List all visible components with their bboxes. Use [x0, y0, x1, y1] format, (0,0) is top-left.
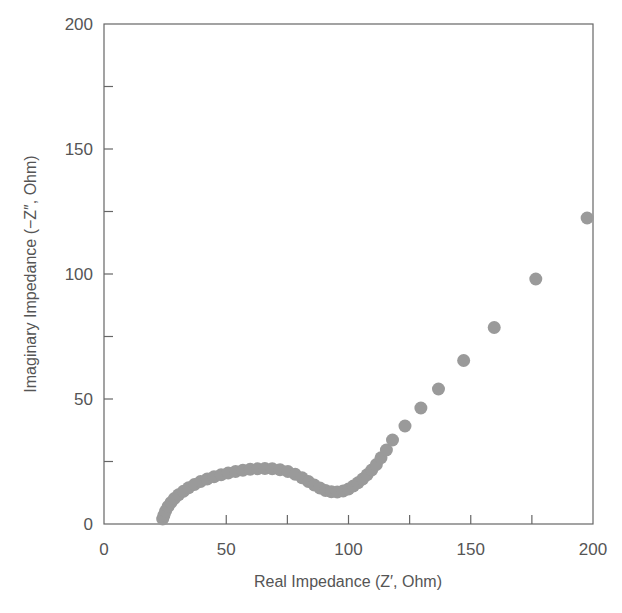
data-point: [488, 321, 501, 334]
data-point: [432, 383, 445, 396]
data-point: [581, 212, 594, 225]
y-tick-label: 0: [84, 515, 93, 534]
x-tick-label: 200: [579, 540, 607, 559]
data-points: [156, 212, 593, 526]
y-tick-label: 100: [65, 265, 93, 284]
x-tick-label: 0: [99, 540, 108, 559]
data-point: [414, 402, 427, 415]
data-point: [398, 420, 411, 433]
y-axis-title: Imaginary Impedance (−Z″, Ohm): [22, 155, 39, 392]
axis-ticks: [104, 87, 532, 525]
x-tick-label: 50: [217, 540, 236, 559]
y-tick-label: 200: [65, 15, 93, 34]
data-point: [386, 434, 399, 447]
data-point: [457, 354, 470, 367]
x-axis-tick-labels: 050100150200: [99, 540, 607, 559]
x-tick-label: 100: [334, 540, 362, 559]
x-tick-label: 150: [457, 540, 485, 559]
nyquist-chart: 050100150200 050100150200 Real Impedance…: [0, 0, 622, 613]
x-axis-title: Real Impedance (Z′, Ohm): [254, 573, 442, 590]
y-tick-label: 150: [65, 140, 93, 159]
data-point: [529, 273, 542, 286]
plot-frame: [104, 24, 593, 524]
y-tick-label: 50: [74, 390, 93, 409]
y-axis-tick-labels: 050100150200: [65, 15, 93, 534]
